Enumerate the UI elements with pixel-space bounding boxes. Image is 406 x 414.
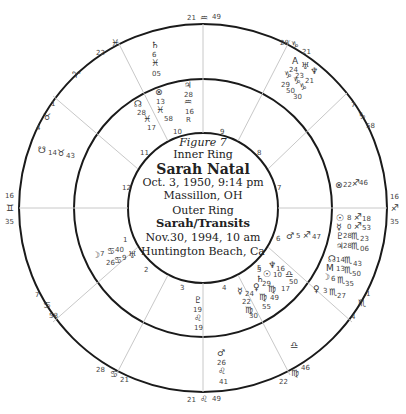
svg-text:5: 5 — [257, 264, 261, 272]
house-number-4: 4 — [222, 284, 227, 292]
svg-text:♐: ♐ — [391, 203, 399, 213]
svg-text:55: 55 — [262, 303, 271, 311]
svg-text:21: 21 — [120, 376, 129, 384]
svg-text:49: 49 — [270, 294, 279, 302]
svg-text:21: 21 — [302, 48, 311, 56]
svg-text:58: 58 — [49, 312, 58, 320]
svg-text:35: 35 — [390, 218, 399, 226]
svg-text:1: 1 — [51, 100, 55, 108]
svg-text:23: 23 — [360, 235, 369, 243]
svg-text:♀: ♀ — [313, 284, 320, 294]
svg-text:♏: ♏ — [344, 265, 352, 275]
svg-text:♓: ♓ — [143, 114, 151, 124]
svg-text:58: 58 — [366, 122, 375, 130]
svg-text:♒: ♒ — [200, 13, 208, 23]
svg-text:47: 47 — [312, 233, 321, 241]
svg-text:⊗: ⊗ — [155, 87, 163, 97]
svg-text:19: 19 — [194, 324, 203, 332]
svg-text:7: 7 — [35, 291, 39, 299]
house-number-9: 9 — [220, 128, 224, 136]
svg-text:43: 43 — [66, 152, 75, 160]
svg-text:☋: ☋ — [38, 145, 46, 155]
outer-chart-date: Nov.30, 1994, 10 am — [128, 232, 278, 244]
svg-text:♌: ♌ — [218, 366, 226, 376]
svg-text:06: 06 — [360, 245, 369, 253]
outer-chart-place: Huntington Beach, Ca — [128, 246, 278, 258]
inner-chart-date: Oct. 3, 1950, 9:14 pm — [128, 177, 278, 189]
svg-text:♒: ♒ — [184, 97, 192, 107]
inner-ring-title: Inner Ring — [128, 149, 278, 161]
svg-text:22: 22 — [343, 181, 352, 189]
svg-text:9: 9 — [122, 254, 126, 262]
svg-text:♂: ♂ — [286, 231, 294, 241]
svg-text:♑: ♑ — [299, 82, 307, 92]
svg-text:35: 35 — [345, 280, 354, 288]
svg-text:27: 27 — [337, 292, 346, 300]
svg-text:41: 41 — [219, 378, 228, 386]
house-number-3: 3 — [180, 284, 184, 292]
svg-text:♀: ♀ — [253, 282, 260, 292]
svg-text:7: 7 — [351, 101, 355, 109]
svg-text:28: 28 — [280, 39, 289, 47]
inner-chart-place: Massillon, OH — [128, 190, 278, 202]
svg-text:♌: ♌ — [200, 394, 208, 404]
svg-text:♂: ♂ — [217, 348, 225, 358]
svg-text:18: 18 — [362, 215, 371, 223]
svg-text:♅: ♅ — [301, 61, 309, 71]
svg-text:♓: ♓ — [151, 58, 159, 68]
svg-text:30: 30 — [249, 312, 258, 320]
svg-text:21: 21 — [187, 14, 196, 22]
svg-text:A: A — [292, 56, 299, 66]
svg-text:0: 0 — [347, 223, 351, 231]
chart-caption: Figure 7 Inner Ring Sarah Natal Oct. 3, … — [128, 137, 278, 259]
svg-text:24: 24 — [245, 290, 254, 298]
svg-text:46: 46 — [301, 364, 310, 372]
svg-text:35: 35 — [5, 218, 14, 226]
svg-text:50: 50 — [352, 270, 361, 278]
svg-text:53: 53 — [362, 224, 371, 232]
svg-text:☉: ☉ — [263, 269, 271, 279]
svg-text:4: 4 — [351, 313, 356, 321]
svg-text:05: 05 — [152, 70, 161, 78]
libra-sign: ♎ — [290, 340, 298, 350]
svg-text:♍: ♍ — [259, 292, 267, 302]
outer-chart-name: Sarah/Transits — [128, 217, 278, 230]
svg-text:♑: ♑ — [291, 40, 299, 50]
svg-text:♓: ♓ — [156, 105, 164, 115]
svg-text:22: 22 — [96, 49, 105, 57]
svg-text:17: 17 — [281, 285, 290, 293]
svg-text:♏: ♏ — [351, 231, 359, 241]
svg-text:22: 22 — [279, 378, 288, 386]
svg-text:☽: ☽ — [92, 250, 100, 260]
svg-text:5: 5 — [296, 232, 300, 240]
inner-chart-name: Sarah Natal — [128, 162, 278, 178]
svg-text:♏: ♏ — [358, 298, 366, 308]
svg-text:50: 50 — [289, 278, 298, 286]
svg-text:♏: ♏ — [344, 255, 352, 265]
svg-text:♐: ♐ — [354, 221, 362, 231]
svg-text:16: 16 — [5, 192, 14, 200]
svg-text:♍: ♍ — [291, 368, 299, 378]
svg-text:♇: ♇ — [194, 295, 202, 305]
svg-text:46: 46 — [359, 179, 368, 187]
svg-text:♏: ♏ — [351, 241, 359, 251]
svg-text:♑: ♑ — [284, 70, 292, 80]
svg-text:♍: ♍ — [268, 284, 276, 294]
svg-text:58: 58 — [164, 115, 173, 123]
svg-text:♋: ♋ — [43, 300, 51, 310]
svg-text:21: 21 — [187, 396, 196, 404]
svg-text:30: 30 — [293, 93, 302, 101]
svg-text:16: 16 — [390, 193, 399, 201]
house-number-1: 1 — [123, 236, 127, 244]
svg-text:40: 40 — [115, 246, 124, 254]
svg-text:7: 7 — [100, 250, 104, 258]
svg-text:17: 17 — [147, 124, 156, 132]
svg-text:♉: ♉ — [43, 112, 51, 122]
aries-sign: ♈ — [72, 70, 81, 80]
svg-text:8: 8 — [347, 214, 351, 222]
svg-text:16: 16 — [185, 108, 194, 116]
svg-text:♄: ♄ — [151, 40, 159, 50]
svg-text:♋: ♋ — [110, 369, 118, 379]
svg-text:♃: ♃ — [184, 80, 192, 90]
svg-text:43: 43 — [353, 260, 362, 268]
